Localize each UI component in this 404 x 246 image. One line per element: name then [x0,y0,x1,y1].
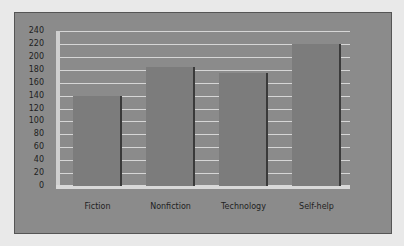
y-tick-label: 80 [14,129,44,138]
y-tick-label: 20 [14,168,44,177]
x-tick-label: Nonfiction [131,202,211,211]
y-tick-label: 100 [14,116,44,125]
y-tick-label: 240 [14,26,44,35]
y-axis [56,31,60,189]
y-tick-label: 120 [14,104,44,113]
bar-technology [219,73,268,186]
y-tick-label: 200 [14,52,44,61]
y-tick-label: 220 [14,39,44,48]
y-tick-label: 60 [14,142,44,151]
y-tick-label: 0 [14,181,44,190]
bar-fiction [73,96,122,186]
bar-self-help [292,44,341,186]
gridline [60,31,350,32]
x-tick-label: Fiction [58,202,138,211]
y-tick-label: 160 [14,78,44,87]
bar-nonfiction [146,67,195,186]
x-tick-label: Technology [204,202,284,211]
y-tick-label: 140 [14,91,44,100]
y-tick-label: 180 [14,65,44,74]
bar-chart: 020406080100120140160180200220240Fiction… [0,0,404,246]
x-tick-label: Self-help [277,202,357,211]
y-tick-label: 40 [14,155,44,164]
